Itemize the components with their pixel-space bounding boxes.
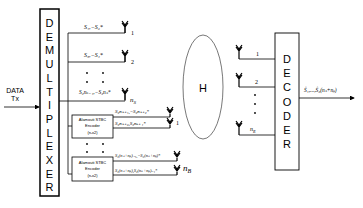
mimo-block-diagram: DATA Tx DEMULTIPLEXER S₁,−S₂* 1 S₃,−S₄* … (0, 0, 363, 208)
label-letter: T (46, 86, 53, 98)
antenna-icon (174, 151, 180, 161)
antenna-icon (122, 21, 128, 33)
label-letter: E (283, 124, 290, 136)
stbc-encoder-1-size: (nᵣx2) (87, 130, 98, 135)
antenna-icon (122, 50, 128, 62)
label-letter: C (283, 81, 291, 93)
sm-branch-1: S₁,−S₂* 1 (68, 21, 134, 36)
channel-label: H (199, 82, 207, 94)
label-letter: P (46, 113, 53, 125)
antenna-icon (236, 73, 242, 87)
sm-ellipsis-dots (86, 72, 104, 83)
label-letter: D (283, 110, 291, 122)
data-tx-label-line1: DATA (6, 87, 24, 94)
sm-antenna-ns-label: nS (130, 96, 137, 105)
rx-antenna-nr: nR (236, 121, 275, 135)
label-letter: I (48, 99, 51, 111)
antenna-icon (122, 88, 128, 100)
demultiplexer-block: DEMULTIPLEXER (40, 9, 59, 196)
antenna-icon (236, 45, 242, 59)
stbc-encoder-nb-size: (nᵣx2) (87, 173, 98, 178)
sm-branch-2-symbols: S₃,−S₄* (84, 52, 103, 58)
decoder-output: Ŝ₁,...,Ŝ₂(nₛ+nᵦ) (299, 86, 354, 98)
label-letter: U (46, 58, 54, 70)
stbc-encoder-1-output-bottom: S₂nₛ₊₂,S₂nₛ₊₁* (115, 121, 146, 127)
decoder-label: DECODER (283, 53, 292, 150)
stbc-encoder-nb: Alamouti STBC Encoder (nᵣx2) S₂(nₛ+nᵦ)₋₁… (68, 151, 192, 181)
data-tx-input: DATA Tx (4, 87, 39, 107)
rx-ellipsis-dots (254, 94, 256, 114)
rx-antenna-2: 2 (236, 73, 275, 87)
sm-antenna-2-label: 2 (131, 59, 134, 65)
label-letter: O (283, 96, 292, 108)
stbc-antenna-1-label: 1 (176, 120, 179, 126)
stbc-encoder-1-title: Alamouti STBC (79, 117, 106, 122)
stbc-ellipsis-dots (86, 143, 104, 153)
stbc-encoder-1-subtitle: Encoder (85, 123, 101, 128)
sm-antenna-1-label: 1 (131, 30, 134, 36)
output-symbols-label: Ŝ₁,...,Ŝ₂(nₛ+nᵦ) (304, 86, 337, 94)
label-letter: R (283, 138, 291, 150)
label-letter: E (46, 31, 53, 43)
label-letter: X (46, 154, 54, 166)
channel-block: H (183, 35, 223, 139)
stbc-encoder-nb-output-top: S₂(nₛ+nᵦ)₋₁,−S₂(nₛ+nᵦ)* (115, 153, 161, 159)
rx-antenna-2-label: 2 (255, 79, 258, 85)
label-letter: L (46, 127, 52, 139)
label-letter: E (46, 140, 53, 152)
antenna-icon (167, 107, 173, 117)
antenna-icon (236, 121, 242, 135)
stbc-encoder-1: Alamouti STBC Encoder (nᵣx2) S₂nₛ₊₁,−S₂n… (68, 107, 179, 138)
label-letter: L (46, 72, 52, 84)
stbc-encoder-nb-title: Alamouti STBC (79, 160, 106, 165)
stbc-encoder-1-output-top: S₂nₛ₊₁,−S₂nₛ₊₂* (115, 109, 150, 115)
label-letter: M (45, 44, 54, 56)
antenna-icon (167, 118, 173, 128)
label-letter: E (46, 168, 53, 180)
label-letter: E (283, 67, 290, 79)
label-letter: R (46, 181, 54, 193)
stbc-encoder-nb-output-bottom: S₂(nₛ+nᵦ),S₂(nₛ+nᵦ)₋₁* (115, 168, 158, 174)
decoder-block: DECODER (275, 33, 299, 170)
label-letter: D (283, 53, 291, 65)
stbc-antenna-nb-label: nB (183, 163, 192, 174)
sm-branch-ns: S₂nₛ₋₁,−S₂nₛ* nS (68, 88, 137, 105)
sm-branch-ns-symbols: S₂nₛ₋₁,−S₂nₛ* (79, 89, 111, 95)
sm-branch-1-symbols: S₁,−S₂* (84, 24, 103, 30)
antenna-icon (174, 165, 180, 175)
rx-antenna-1: 1 (236, 45, 275, 59)
stbc-encoder-nb-subtitle: Encoder (85, 166, 101, 171)
sm-branch-2: S₃,−S₄* 2 (68, 50, 134, 65)
rx-antenna-1-label: 1 (256, 51, 259, 57)
label-letter: D (46, 17, 54, 29)
data-tx-label-line2: Tx (11, 95, 19, 102)
rx-antenna-nr-label: nR (250, 126, 256, 134)
